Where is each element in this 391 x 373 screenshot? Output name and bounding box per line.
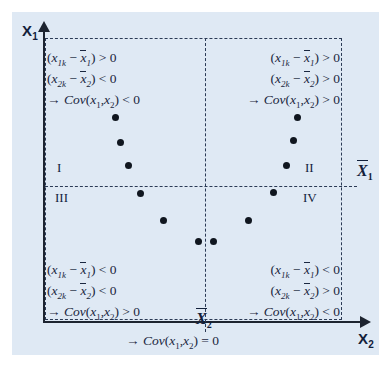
mean-label-x1: X1 [357, 160, 373, 182]
scatter-point [112, 114, 119, 121]
formula-line: (x2k − x2) > 0 [225, 71, 340, 92]
scatter-point [290, 137, 297, 144]
formula-line: → Cov(x1,x2) < 0 [47, 92, 140, 113]
scatter-point [210, 238, 217, 245]
mean-label-x1-subscript: 1 [368, 171, 373, 182]
scatter-point [160, 217, 167, 224]
formula-quadrant-iii: (x1k − x1) < 0(x2k − x2) < 0→ Cov(x1,x2)… [47, 262, 140, 326]
formula-quadrant-ii: (x1k − x1) > 0(x2k − x2) > 0→ Cov(x1,x2)… [225, 50, 340, 114]
scatter-point [283, 162, 290, 169]
formula-line: → Cov(x1,x2) > 0 [47, 304, 140, 325]
x-axis-arrow-icon [360, 316, 371, 328]
scatter-point [270, 189, 277, 196]
scatter-point [195, 238, 202, 245]
x-axis-label-text: X [358, 330, 368, 347]
formula-line: (x1k − x1) < 0 [225, 262, 340, 283]
formula-line: (x2k − x2) < 0 [47, 283, 140, 304]
formula-line: (x2k − x2) > 0 [225, 283, 340, 304]
quadrant-numeral-iv: IV [303, 190, 317, 206]
scatter-point [125, 162, 132, 169]
formula-quadrant-iv: (x1k − x1) < 0(x2k − x2) > 0→ Cov(x1,x2)… [225, 262, 340, 326]
mean-line-vertical [205, 38, 206, 332]
mean-label-x2-text: X [196, 308, 207, 328]
conclusion-zero-covariance: → Cov(x1,x2) = 0 [126, 333, 219, 351]
y-axis-label-text: X [22, 22, 32, 39]
y-axis-label: X1 [22, 22, 38, 42]
formula-quadrant-i: (x1k − x1) > 0(x2k − x2) < 0→ Cov(x1,x2)… [47, 50, 140, 114]
quadrant-numeral-ii: II [305, 160, 314, 176]
formula-line: → Cov(x1,x2) < 0 [225, 304, 340, 325]
scatter-point [117, 139, 124, 146]
formula-line: (x1k − x1) > 0 [47, 50, 140, 71]
x-axis-label-subscript: 2 [368, 339, 374, 350]
mean-line-horizontal [45, 186, 357, 187]
quadrant-numeral-iii: III [55, 190, 68, 206]
scatter-point [137, 190, 144, 197]
formula-line: → Cov(x1,x2) > 0 [225, 92, 340, 113]
y-axis-label-subscript: 1 [32, 31, 38, 42]
formula-line: (x1k − x1) > 0 [225, 50, 340, 71]
mean-label-x1-text: X [357, 160, 368, 180]
quadrant-numeral-i: I [57, 160, 61, 176]
covariance-quadrant-figure: X1 X2 X1 X2 I II III IV (x1k − x1) > 0(x… [0, 0, 391, 373]
y-axis-arrow-icon [38, 21, 50, 32]
mean-label-x2: X2 [196, 308, 212, 330]
scatter-point [294, 114, 301, 121]
scatter-point [245, 217, 252, 224]
x-axis-label: X2 [358, 330, 374, 350]
formula-line: (x2k − x2) < 0 [47, 71, 140, 92]
formula-line: (x1k − x1) < 0 [47, 262, 140, 283]
mean-label-x2-subscript: 2 [207, 319, 212, 330]
